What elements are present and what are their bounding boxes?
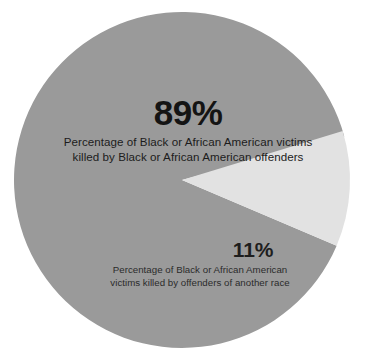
pie-chart-figure: 89% Percentage of Black or African Ameri…: [0, 0, 371, 358]
major-slice-caption-line-2: killed by Black or African American offe…: [38, 149, 338, 164]
major-slice-caption: Percentage of Black or African American …: [38, 134, 338, 164]
minor-slice-percentage: 11%: [233, 238, 273, 261]
minor-slice-caption-line-1: Percentage of Black or African American: [80, 263, 320, 276]
major-slice-label-group: 89% Percentage of Black or African Ameri…: [38, 94, 338, 164]
major-slice-percentage: 89%: [38, 94, 338, 132]
pie-chart-labels: 89% Percentage of Black or African Ameri…: [0, 0, 371, 358]
minor-slice-value-wrap: 11%: [193, 238, 313, 262]
minor-slice-caption-line-2: victims killed by offenders of another r…: [80, 276, 320, 289]
major-slice-caption-line-1: Percentage of Black or African American …: [38, 134, 338, 149]
minor-slice-caption: Percentage of Black or African American …: [80, 263, 320, 289]
